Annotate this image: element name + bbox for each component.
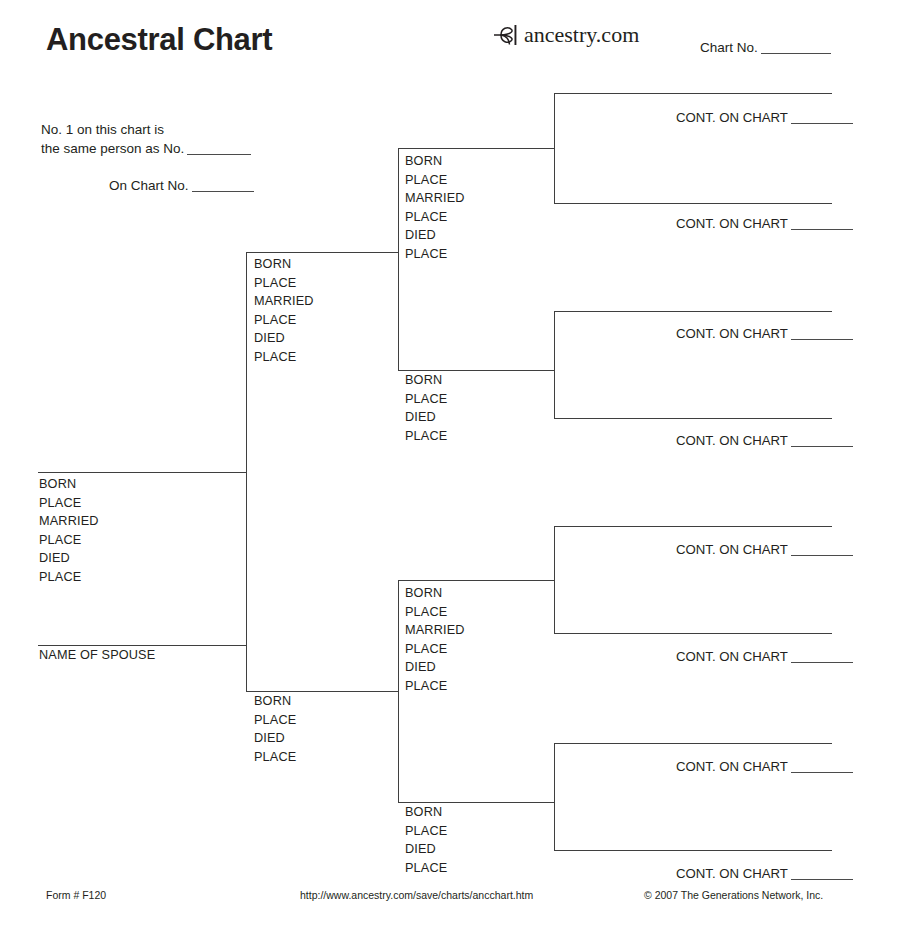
cross-ref-line-2[interactable]: the same person as No. <box>41 139 254 158</box>
gen3-c-top-rule <box>398 580 554 581</box>
cont-on-chart-5-blank[interactable] <box>791 542 853 556</box>
cont-on-chart-1[interactable]: CONT. ON CHART <box>676 110 853 125</box>
gen4-rule-1 <box>554 93 832 94</box>
cont-on-chart-6[interactable]: CONT. ON CHART <box>676 649 853 664</box>
cont-on-chart-1-blank[interactable] <box>791 110 853 124</box>
gen1-fields[interactable]: BORN PLACE MARRIED PLACE DIED PLACE <box>39 475 99 587</box>
cont-on-chart-8-label: CONT. ON CHART <box>676 866 788 881</box>
gen3-b-field-born: BORN <box>405 371 447 390</box>
cross-ref-line-3[interactable]: On Chart No. <box>41 176 254 195</box>
cont-on-chart-4-label: CONT. ON CHART <box>676 433 788 448</box>
gen3-a-field-place-1: PLACE <box>405 171 465 190</box>
gen3-c-field-born: BORN <box>405 584 465 603</box>
ancestry-leaf-icon <box>492 23 522 47</box>
on-chart-no-blank[interactable] <box>192 178 254 192</box>
gen3-d-field-died: DIED <box>405 840 447 859</box>
cont-on-chart-3-label: CONT. ON CHART <box>676 326 788 341</box>
gen3-b-field-place-1: PLACE <box>405 390 447 409</box>
ancestral-chart-page: Ancestral Chart ancestry.com Chart No. N… <box>0 0 901 936</box>
gen2-father-top-rule <box>246 252 398 253</box>
gen2-mother-field-died: DIED <box>254 729 296 748</box>
cross-ref-line-2-label: the same person as No. <box>41 141 184 156</box>
gen3-a-fields[interactable]: BORN PLACE MARRIED PLACE DIED PLACE <box>405 152 465 264</box>
gen2-father-field-place-1: PLACE <box>254 274 314 293</box>
gen3-upper-bracket <box>398 148 399 371</box>
cross-reference-note: No. 1 on this chart is the same person a… <box>41 120 254 195</box>
cont-on-chart-2-blank[interactable] <box>791 216 853 230</box>
gen1-spouse-label: NAME OF SPOUSE <box>39 648 155 662</box>
gen3-b-fields[interactable]: BORN PLACE DIED PLACE <box>405 371 447 445</box>
gen3-d-field-place-2: PLACE <box>405 859 447 878</box>
gen1-field-married: MARRIED <box>39 512 99 531</box>
gen1-field-place-1: PLACE <box>39 494 99 513</box>
cont-on-chart-4[interactable]: CONT. ON CHART <box>676 433 853 448</box>
gen4-rule-8 <box>554 850 832 851</box>
chart-no-label: Chart No. <box>700 40 758 55</box>
gen1-field-place-2: PLACE <box>39 531 99 550</box>
gen3-b-field-place-2: PLACE <box>405 427 447 446</box>
gen4-bracket-1 <box>554 93 555 203</box>
gen3-d-field-place-1: PLACE <box>405 822 447 841</box>
cont-on-chart-8-blank[interactable] <box>791 866 853 880</box>
cont-on-chart-6-label: CONT. ON CHART <box>676 649 788 664</box>
cont-on-chart-5-label: CONT. ON CHART <box>676 542 788 557</box>
footer-url: http://www.ancestry.com/save/charts/ancc… <box>300 889 533 901</box>
same-person-no-blank[interactable] <box>187 141 251 155</box>
cont-on-chart-2[interactable]: CONT. ON CHART <box>676 216 853 231</box>
cross-ref-line-1: No. 1 on this chart is <box>41 120 254 139</box>
gen2-father-field-died: DIED <box>254 329 314 348</box>
cont-on-chart-7-label: CONT. ON CHART <box>676 759 788 774</box>
cont-on-chart-2-label: CONT. ON CHART <box>676 216 788 231</box>
gen3-c-field-place-3: PLACE <box>405 677 465 696</box>
cont-on-chart-3[interactable]: CONT. ON CHART <box>676 326 853 341</box>
gen3-a-field-married: MARRIED <box>405 189 465 208</box>
gen4-bracket-3 <box>554 526 555 633</box>
gen1-spouse-rule <box>38 645 246 646</box>
gen4-rule-5 <box>554 526 832 527</box>
chart-no-field[interactable]: Chart No. <box>700 40 831 55</box>
gen2-father-field-born: BORN <box>254 255 314 274</box>
gen2-mother-field-place-2: PLACE <box>254 748 296 767</box>
gen2-father-field-married: MARRIED <box>254 292 314 311</box>
gen3-lower-bracket <box>398 580 399 803</box>
gen4-bracket-4 <box>554 743 555 850</box>
gen2-father-field-place-2: PLACE <box>254 311 314 330</box>
cont-on-chart-4-blank[interactable] <box>791 433 853 447</box>
gen1-top-rule <box>38 472 246 473</box>
brand-name: ancestry.com <box>524 24 639 46</box>
gen3-c-field-married: MARRIED <box>405 621 465 640</box>
cont-on-chart-5[interactable]: CONT. ON CHART <box>676 542 853 557</box>
ancestry-brand: ancestry.com <box>492 23 639 47</box>
gen3-c-field-place-1: PLACE <box>405 603 465 622</box>
gen2-mother-field-place-1: PLACE <box>254 711 296 730</box>
gen2-bracket <box>246 252 247 692</box>
footer-copyright: © 2007 The Generations Network, Inc. <box>644 889 823 901</box>
gen3-a-field-born: BORN <box>405 152 465 171</box>
chart-no-blank[interactable] <box>761 40 831 54</box>
gen2-father-fields[interactable]: BORN PLACE MARRIED PLACE DIED PLACE <box>254 255 314 367</box>
gen3-d-fields[interactable]: BORN PLACE DIED PLACE <box>405 803 447 877</box>
gen3-b-field-died: DIED <box>405 408 447 427</box>
gen3-c-field-place-2: PLACE <box>405 640 465 659</box>
gen4-rule-2 <box>554 203 832 204</box>
gen4-rule-3 <box>554 311 832 312</box>
cross-ref-line-3-label: On Chart No. <box>109 178 189 193</box>
cont-on-chart-6-blank[interactable] <box>791 649 853 663</box>
footer-form-number: Form # F120 <box>46 889 106 901</box>
gen2-father-field-place-3: PLACE <box>254 348 314 367</box>
gen1-field-born: BORN <box>39 475 99 494</box>
gen4-rule-4 <box>554 418 832 419</box>
gen2-mother-fields[interactable]: BORN PLACE DIED PLACE <box>254 692 296 766</box>
gen3-c-fields[interactable]: BORN PLACE MARRIED PLACE DIED PLACE <box>405 584 465 696</box>
gen2-mother-field-born: BORN <box>254 692 296 711</box>
page-title: Ancestral Chart <box>46 22 272 58</box>
gen4-rule-7 <box>554 743 832 744</box>
gen1-field-place-3: PLACE <box>39 568 99 587</box>
cont-on-chart-7[interactable]: CONT. ON CHART <box>676 759 853 774</box>
gen4-bracket-2 <box>554 311 555 418</box>
gen1-field-died: DIED <box>39 549 99 568</box>
cont-on-chart-8[interactable]: CONT. ON CHART <box>676 866 853 881</box>
cont-on-chart-7-blank[interactable] <box>791 759 853 773</box>
cont-on-chart-3-blank[interactable] <box>791 326 853 340</box>
gen4-rule-6 <box>554 633 832 634</box>
